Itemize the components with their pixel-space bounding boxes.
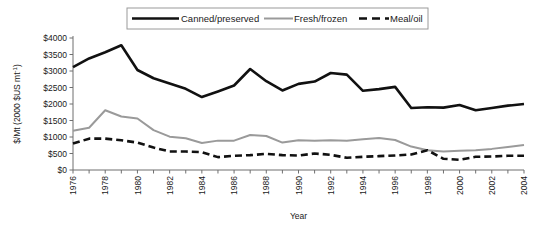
x-tick-label: 1984 xyxy=(197,176,207,195)
y-tick-label: $500 xyxy=(48,149,67,159)
x-tick-label: 1982 xyxy=(165,176,175,195)
series-line-1 xyxy=(73,110,524,151)
x-tick-label: 1986 xyxy=(229,176,239,195)
x-tick-label: 1980 xyxy=(133,176,143,195)
x-tick-label: 1994 xyxy=(358,176,368,195)
x-tick-label: 2000 xyxy=(455,176,465,195)
legend-label-1: Fresh/frozen xyxy=(294,13,347,24)
x-tick-label: 1976 xyxy=(68,176,78,195)
series-line-0 xyxy=(73,45,524,110)
x-axis-title: Year xyxy=(290,211,307,221)
y-tick-label: $3000 xyxy=(43,66,67,76)
x-tick-label: 1992 xyxy=(326,176,336,195)
y-tick-label: $3500 xyxy=(43,50,67,60)
series-line-2 xyxy=(73,139,524,160)
legend-label-0: Canned/preserved xyxy=(181,13,259,24)
x-tick-label: 1988 xyxy=(261,176,271,195)
y-tick-label: $2500 xyxy=(43,83,67,93)
chart-container: $4000$3500$3000$2500$2000$1500$1000$500$… xyxy=(0,0,543,228)
x-tick-label: 1996 xyxy=(390,176,400,195)
y-tick-label: $1000 xyxy=(43,132,67,142)
x-tick-label: 2004 xyxy=(519,176,529,195)
y-tick-label: $1500 xyxy=(43,116,67,126)
y-axis-title: $/Mt (2000 $US mt-1) xyxy=(11,64,23,144)
x-tick-label: 1998 xyxy=(423,176,433,195)
y-tick-label: $2000 xyxy=(43,99,67,109)
x-tick-label: 1978 xyxy=(100,176,110,195)
line-chart: $4000$3500$3000$2500$2000$1500$1000$500$… xyxy=(0,0,543,228)
y-tick-label: $4000 xyxy=(43,33,67,43)
y-tick-label: $0 xyxy=(58,165,68,175)
legend-label-2: Meal/oil xyxy=(390,13,423,24)
x-tick-label: 1990 xyxy=(294,176,304,195)
x-tick-label: 2002 xyxy=(487,176,497,195)
